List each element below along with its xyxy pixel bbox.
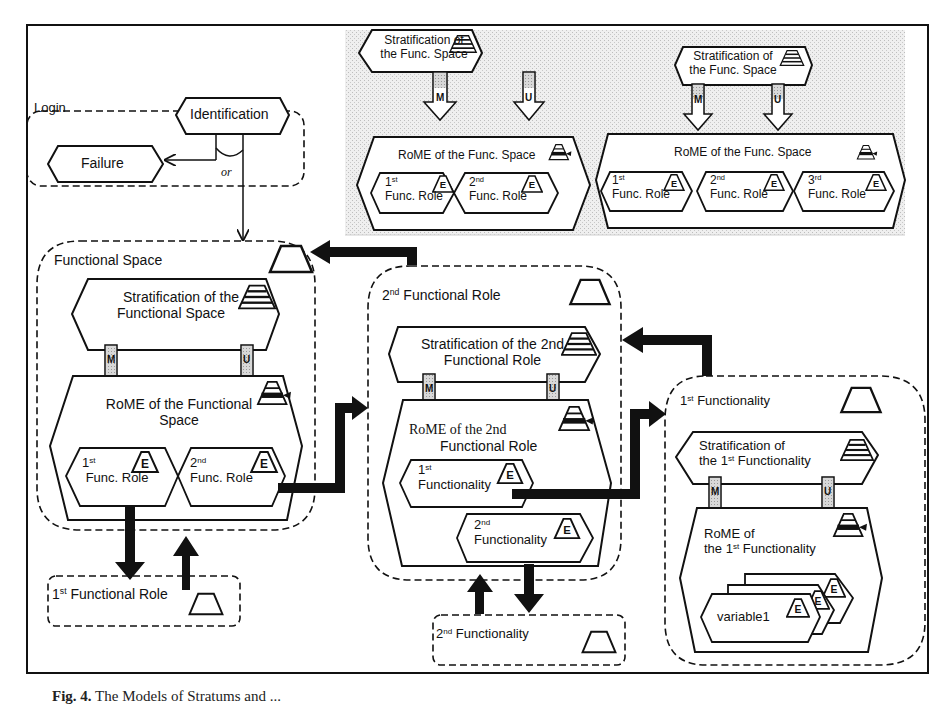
role-label: 1st Func. Role	[82, 456, 149, 486]
thick-arrow-down	[514, 564, 544, 613]
thick-connector-1st-functionality-to-2nd-role	[640, 340, 707, 376]
second-functionality-label[interactable]: 2nd Functionality	[436, 627, 529, 642]
second-functional-role-title: 2nd Functional Role	[382, 287, 501, 303]
trapezoid-icon	[841, 388, 880, 412]
thick-connector-2nd-role-to-fs	[326, 252, 412, 265]
first-functional-role-label[interactable]: 1st Functional Role	[52, 586, 168, 602]
second-functional-role-rome-label: RoME of the 2nd Functional Role	[409, 422, 537, 455]
functionality-label: 1stFunctionality	[418, 463, 491, 493]
label-line: the Func. Space	[689, 63, 776, 77]
or-arc	[216, 148, 243, 156]
arrow-u-label: U	[549, 383, 556, 395]
second-functional-role-stratification-label: Stratification of the 2nd Functional Rol…	[405, 336, 580, 368]
role-label: 1stFunc. Role	[385, 176, 443, 204]
first-functionality-group	[665, 376, 925, 665]
trapezoid-icon	[270, 246, 312, 272]
label-line: Stratification of	[693, 49, 772, 63]
thick-arrow-up	[173, 536, 199, 590]
role-label: 2ndFunc. Role	[190, 456, 253, 486]
variable1-label[interactable]: variable1	[717, 610, 770, 625]
role-label: 2ndFunc. Role	[710, 174, 768, 202]
login-title: Login	[34, 101, 66, 116]
example-a-rome-label: RoME of the Func. Space	[398, 149, 535, 163]
example-b-stratification-label: Stratification of the Func. Space	[687, 50, 779, 78]
arrow-m-label: M	[711, 486, 719, 498]
arrow-m-label: M	[425, 383, 433, 395]
role-label: 1stFunc. Role	[612, 174, 670, 202]
trapezoid-icon	[570, 280, 609, 304]
or-label: or	[221, 166, 232, 180]
role-label: 3rdFunc. Role	[808, 174, 866, 202]
arrow-u-label: U	[824, 486, 831, 498]
functional-space-title: Functional Space	[54, 252, 162, 268]
label-line: Stratification of	[384, 33, 463, 47]
arrow-u-label: U	[525, 92, 532, 104]
first-functionality-stratification-label: Stratification of the 1st Functionality	[699, 439, 811, 469]
functional-space-group	[37, 241, 315, 530]
arrow-u-label: U	[243, 354, 250, 366]
failure-label[interactable]: Failure	[81, 155, 124, 171]
trapezoid-icon	[190, 594, 223, 614]
figure-caption: Fig. 4. The Models of Stratums and ...	[52, 688, 281, 705]
example-b-rome-label: RoME of the Func. Space	[674, 146, 811, 160]
arrow-m-label: M	[436, 92, 444, 104]
identification-label[interactable]: Identification	[190, 106, 269, 122]
first-functionality-rome-label: RoME of the 1st Functionality	[704, 527, 816, 557]
arrow-u-label: U	[774, 94, 781, 106]
first-functionality-title: 1st Functionality	[680, 394, 770, 409]
trapezoid-icon	[583, 632, 616, 652]
arrow-m-label: M	[107, 354, 115, 366]
arrow-m-label: M	[694, 94, 702, 106]
example-a-stratification-label: Stratification of the Func. Space	[378, 34, 470, 62]
functional-space-rome-label: RoME of the Functional Space	[94, 396, 264, 428]
functional-space-stratification-label: Stratification of the Functional Space	[96, 289, 246, 321]
functionality-label: 2ndFunctionality	[474, 518, 547, 548]
role-label: 2ndFunc. Role	[469, 176, 527, 204]
label-line: the Func. Space	[380, 47, 467, 61]
